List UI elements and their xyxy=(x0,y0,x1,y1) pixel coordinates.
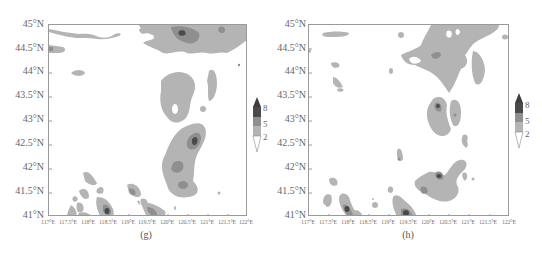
colorbar-triangle-g xyxy=(252,97,262,153)
x-tick: 119°E xyxy=(121,219,135,225)
panel-label-g: (g) xyxy=(140,229,152,240)
colorbar-g xyxy=(252,97,262,153)
colorbar-label: 8 xyxy=(525,101,530,110)
x-tick: 121°E xyxy=(461,219,475,225)
x-tick: 118°E xyxy=(341,219,355,225)
y-tick: 42.5°N xyxy=(262,138,306,148)
y-tick: 42.5°N xyxy=(0,138,44,148)
contour-plot-h xyxy=(308,24,509,216)
contour-field-g xyxy=(49,25,247,216)
colorbar-triangle-h xyxy=(514,93,524,149)
x-tick: 122°E xyxy=(239,219,253,225)
y-tick: 43°N xyxy=(262,114,306,124)
x-tick: 118.5°E xyxy=(99,219,117,225)
y-tick: 45°N xyxy=(0,19,44,29)
contour-field-h xyxy=(309,25,509,216)
contour-plot-g xyxy=(48,24,247,216)
y-tick: 43.5°N xyxy=(262,90,306,100)
x-tick: 119.5°E xyxy=(399,219,417,225)
panel-h: 45°N 44.5°N 44°N 43.5°N 43°N 42.5°N 42°N… xyxy=(262,0,542,254)
panel-label-h: (h) xyxy=(402,229,414,240)
x-tick: 119.5°E xyxy=(138,219,156,225)
x-tick: 118.5°E xyxy=(359,219,377,225)
x-tick: 120°E xyxy=(160,219,174,225)
y-tick: 41°N xyxy=(262,210,306,220)
y-tick: 44°N xyxy=(0,66,44,76)
y-tick: 44.5°N xyxy=(262,43,306,53)
y-tick: 44°N xyxy=(262,66,306,76)
colorbar-label: 5 xyxy=(525,117,530,126)
y-tick: 44.5°N xyxy=(0,43,44,53)
x-tick: 121.5°E xyxy=(218,219,236,225)
x-tick: 121.5°E xyxy=(479,219,497,225)
y-tick: 42°N xyxy=(262,162,306,172)
x-tick: 120°E xyxy=(421,219,435,225)
x-tick: 117.5°E xyxy=(319,219,337,225)
y-tick: 43°N xyxy=(0,114,44,124)
y-tick: 45°N xyxy=(262,19,306,29)
x-tick: 120.5°E xyxy=(439,219,457,225)
y-tick: 43.5°N xyxy=(0,90,44,100)
x-tick: 122°E xyxy=(502,219,516,225)
y-tick: 41°N xyxy=(0,210,44,220)
x-tick: 117°E xyxy=(41,219,55,225)
y-tick: 41.5°N xyxy=(262,186,306,196)
x-tick: 118°E xyxy=(81,219,95,225)
x-tick: 117°E xyxy=(301,219,315,225)
x-tick: 117.5°E xyxy=(59,219,77,225)
panel-g: 45°N 44.5°N 44°N 43.5°N 43°N 42.5°N 42°N… xyxy=(0,0,270,254)
y-tick: 41.5°N xyxy=(0,186,44,196)
colorbar-label: 2 xyxy=(525,130,530,139)
x-tick: 119°E xyxy=(381,219,395,225)
y-tick: 42°N xyxy=(0,162,44,172)
x-tick: 121°E xyxy=(200,219,214,225)
colorbar-h xyxy=(514,93,524,149)
x-tick: 120.5°E xyxy=(178,219,196,225)
